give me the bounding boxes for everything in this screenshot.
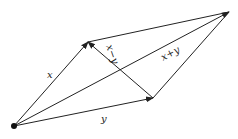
origin-point bbox=[11, 123, 17, 129]
label-x-plus-y: x+y bbox=[159, 44, 182, 63]
vector-x-minus-y-arrow bbox=[88, 42, 153, 98]
label-x-minus-y: x−y bbox=[104, 43, 121, 66]
label-y: y bbox=[100, 113, 107, 124]
parallelogram-top-side bbox=[88, 12, 229, 42]
label-x: x bbox=[47, 69, 53, 80]
vector-diagram: x y x−y x+y bbox=[0, 0, 238, 139]
